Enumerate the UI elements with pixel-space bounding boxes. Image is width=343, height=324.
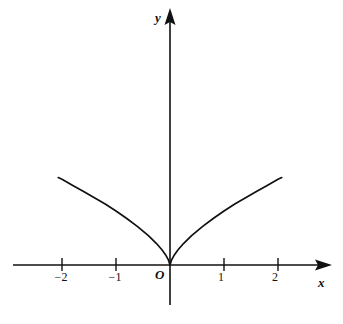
tick-label-neg-1: −1 — [106, 271, 124, 283]
tick-label-pos-2: 2 — [269, 271, 281, 283]
tick-label-pos-1: 1 — [215, 271, 227, 283]
tick-label-neg-2: −2 — [52, 271, 70, 283]
function-graph-figure: y x O −2 −1 1 2 — [0, 0, 343, 324]
origin-label: O — [155, 268, 164, 281]
x-axis-label: x — [318, 276, 325, 289]
y-axis-label: y — [155, 11, 161, 24]
